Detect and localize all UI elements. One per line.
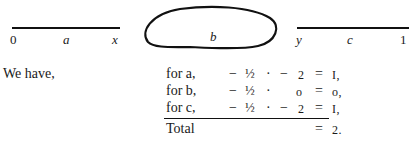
row-half: ½ (245, 100, 255, 116)
row-eq: = (315, 83, 323, 99)
total-result: 2. (332, 122, 342, 138)
row-dot: · (266, 100, 271, 116)
row-eq: = (315, 66, 323, 82)
total-rule (164, 118, 329, 119)
label-one: 1 (400, 33, 407, 47)
row-eq: = (315, 100, 323, 116)
label-x: x (112, 33, 118, 47)
row-minus: − (229, 66, 237, 82)
right-segment-line (297, 27, 409, 29)
total-eq: = (315, 121, 323, 137)
row-value: o (296, 84, 303, 100)
label-b: b (210, 30, 217, 44)
row-minus: − (229, 100, 237, 116)
row-label: for a, (166, 66, 196, 82)
row-dot: · (266, 66, 271, 82)
left-segment-line (12, 27, 120, 29)
row-half: ½ (245, 83, 255, 99)
row-label: for b, (166, 83, 196, 99)
row-dot: · (266, 83, 271, 99)
row-minus: − (229, 83, 237, 99)
row-value: 2 (298, 101, 305, 117)
row-result: I, (332, 101, 340, 117)
row-sign: − (280, 100, 288, 116)
blob-outline (140, 2, 280, 52)
intro-text: We have, (3, 66, 55, 82)
label-c: c (347, 33, 353, 47)
label-a: a (63, 33, 70, 47)
row-half: ½ (245, 66, 255, 82)
row-value: 2 (298, 67, 305, 83)
row-sign: − (280, 66, 288, 82)
label-zero: 0 (10, 33, 17, 47)
row-result: I, (332, 67, 340, 83)
row-label: for c, (166, 100, 196, 116)
label-y: y (296, 33, 302, 47)
row-result: o, (332, 84, 342, 100)
total-label: Total (166, 121, 195, 137)
